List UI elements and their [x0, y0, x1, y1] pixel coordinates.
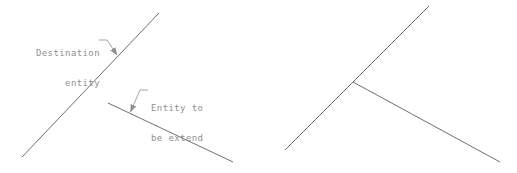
entity-to-extend-label-line2: be extend: [151, 133, 203, 143]
extend-diagram: Destination entity Entity to be extend: [0, 0, 517, 173]
entity-to-extend-label: Entity to be extend: [151, 83, 203, 163]
destination-label-leader: [99, 40, 117, 55]
after-extend-group: [285, 6, 500, 162]
destination-entity-label-line1: Destination: [30, 48, 100, 58]
entity-to-extend-label-line1: Entity to: [151, 103, 203, 113]
destination-entity-line-after: [285, 6, 429, 150]
destination-entity-label: Destination entity: [30, 28, 100, 108]
extended-entity-line: [353, 82, 500, 162]
extend-label-leader: [131, 90, 149, 112]
destination-entity-label-line2: entity: [30, 78, 100, 88]
